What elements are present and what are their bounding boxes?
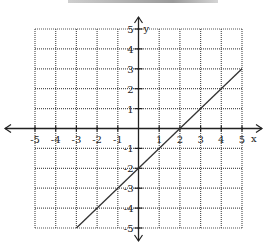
- y-axis-label: y: [143, 23, 150, 34]
- y-tick-label: 1: [127, 104, 133, 115]
- x-tick-label: -3: [72, 134, 82, 145]
- x-tick-label: 3: [197, 134, 203, 145]
- x-tick-label: -1: [113, 134, 123, 145]
- y-tick-label: 3: [127, 64, 133, 75]
- x-tick-label: 2: [177, 134, 183, 145]
- y-tick-label: 4: [127, 44, 133, 55]
- y-tick-label: -1: [124, 143, 134, 154]
- y-tick-label: -2: [124, 163, 134, 174]
- x-tick-label: 1: [156, 134, 162, 145]
- x-tick-label: -2: [92, 134, 102, 145]
- x-tick-label: 5: [239, 134, 245, 145]
- y-tick-label: -5: [124, 223, 134, 234]
- x-tick-label: -5: [30, 134, 40, 145]
- coordinate-plane: -5-4-3-2-11234554321-1-2-3-4-5xy: [0, 0, 269, 247]
- y-tick-label: 2: [127, 84, 133, 95]
- x-axis-label: x: [251, 133, 257, 144]
- y-tick-label: -4: [124, 203, 134, 214]
- y-tick-label: -3: [124, 183, 134, 194]
- x-tick-label: 4: [218, 134, 224, 145]
- x-tick-label: -4: [51, 134, 61, 145]
- y-tick-label: 5: [127, 24, 133, 35]
